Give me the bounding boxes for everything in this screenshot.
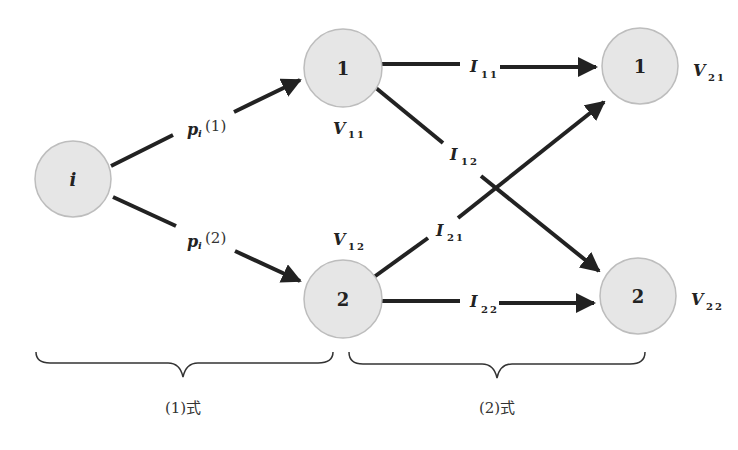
edge-I12-segment-a bbox=[376, 88, 443, 143]
p2-symbol: p bbox=[187, 232, 198, 251]
I12-subscript: 12 bbox=[461, 156, 479, 167]
brace-right-label: (2)式 bbox=[479, 399, 515, 417]
I21-subscript: 21 bbox=[447, 232, 465, 243]
network-diagram: i 1 2 1 2 V 11 V 12 V 21 V 22 p i (1) p … bbox=[0, 0, 738, 450]
p2-argument: (2) bbox=[205, 229, 226, 247]
node-origin-label: i bbox=[70, 169, 77, 190]
brace-right: (2)式 bbox=[349, 352, 645, 417]
edge-I12-segment-b bbox=[481, 176, 599, 271]
brace-left: (1)式 bbox=[36, 352, 333, 417]
edge-p1-segment-a bbox=[111, 135, 173, 166]
edge-I21-segment-b bbox=[458, 102, 604, 218]
node-stage1-bottom-label: 2 bbox=[337, 289, 350, 310]
value-label-V11: V 11 bbox=[333, 119, 366, 140]
V11-symbol: V bbox=[333, 119, 347, 138]
edge-p2-segment-b bbox=[235, 251, 300, 281]
edge-label-p1: p i (1) bbox=[187, 117, 226, 139]
node-stage2-top-label: 1 bbox=[634, 56, 647, 77]
node-stage1-top-label: 1 bbox=[337, 58, 350, 79]
node-stage2-bottom: 2 bbox=[600, 258, 676, 334]
I22-symbol: I bbox=[469, 292, 478, 311]
value-label-V12: V 12 bbox=[333, 230, 366, 252]
V21-symbol: V bbox=[693, 61, 707, 80]
edge-label-I12: I 12 bbox=[449, 145, 479, 167]
p1-subscript: i bbox=[198, 128, 204, 139]
V22-subscript: 22 bbox=[706, 301, 724, 312]
I12-symbol: I bbox=[449, 145, 458, 164]
edge-label-p2: p i (2) bbox=[187, 229, 226, 251]
edge-I21-segment-a bbox=[374, 238, 428, 277]
edge-p1-segment-b bbox=[234, 80, 300, 112]
V11-subscript: 11 bbox=[348, 129, 366, 140]
node-stage2-top: 1 bbox=[602, 28, 678, 104]
edge-label-I22: I 22 bbox=[469, 292, 499, 315]
p1-symbol: p bbox=[187, 120, 198, 139]
I21-symbol: I bbox=[435, 221, 444, 240]
node-stage1-bottom: 2 bbox=[304, 260, 382, 338]
value-label-V22: V 22 bbox=[691, 290, 724, 312]
node-origin: i bbox=[35, 141, 111, 217]
I22-subscript: 22 bbox=[481, 304, 499, 315]
edge-label-I11: I 11 bbox=[469, 57, 499, 80]
p1-argument: (1) bbox=[205, 117, 226, 135]
p2-subscript: i bbox=[198, 240, 204, 251]
V21-subscript: 21 bbox=[708, 72, 726, 83]
I11-subscript: 11 bbox=[481, 69, 499, 80]
V22-symbol: V bbox=[691, 290, 705, 309]
I11-symbol: I bbox=[469, 57, 478, 76]
edge-label-I21: I 21 bbox=[435, 221, 465, 243]
node-stage2-bottom-label: 2 bbox=[632, 286, 645, 307]
node-stage1-top: 1 bbox=[304, 29, 382, 107]
edge-p2-segment-a bbox=[113, 197, 176, 226]
brace-left-label: (1)式 bbox=[165, 399, 201, 417]
V12-subscript: 12 bbox=[348, 241, 366, 252]
V12-symbol: V bbox=[333, 230, 347, 249]
value-label-V21: V 21 bbox=[693, 61, 726, 83]
